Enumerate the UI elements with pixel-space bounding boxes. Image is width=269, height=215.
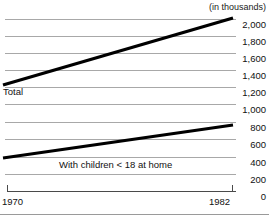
x-tick-label-start: 1970 (2, 197, 23, 207)
y-tick-label-1400: 1,400 (242, 71, 266, 81)
y-tick-label-800: 800 (250, 123, 266, 133)
chart-container: (in thousands) Total With children < 18 … (0, 0, 269, 215)
series-label-with-children: With children < 18 at home (59, 160, 172, 170)
y-tick-label-1600: 1,600 (242, 54, 266, 64)
y-tick-label-1200: 1,200 (242, 88, 266, 98)
y-tick-label-200: 200 (250, 175, 266, 185)
y-tick-label-400: 400 (250, 158, 266, 168)
y-tick-label-2000: 2,000 (242, 20, 266, 30)
series-lines (0, 0, 269, 215)
y-tick-label-1800: 1,800 (242, 37, 266, 47)
series-label-total: Total (3, 87, 23, 97)
series-line-total (3, 18, 233, 85)
x-tick-label-end: 1982 (209, 197, 230, 207)
series-line-with-children (3, 125, 233, 158)
y-tick-label-0: 0 (261, 192, 266, 202)
bottom-divider (0, 214, 269, 215)
y-tick-label-600: 600 (250, 140, 266, 150)
y-tick-label-1000: 1,000 (242, 105, 266, 115)
plot-area: Total With children < 18 at home 2,000 1… (0, 0, 269, 215)
